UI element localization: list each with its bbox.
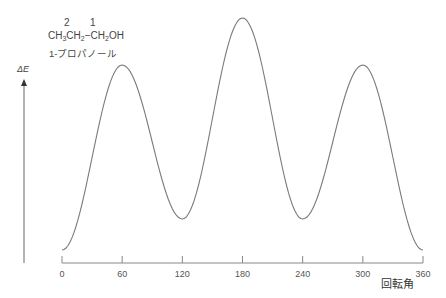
formula-part: −CH bbox=[85, 30, 105, 41]
y-axis-label: ΔE bbox=[17, 64, 29, 74]
formula-part: CH bbox=[48, 30, 62, 41]
x-tick-label: 300 bbox=[355, 269, 370, 279]
x-ticks: 060120180240300360 bbox=[59, 256, 430, 279]
x-tick-label: 180 bbox=[235, 269, 250, 279]
formula-part: CH bbox=[66, 30, 80, 41]
carbon-number-2: 2 bbox=[64, 17, 70, 28]
carbon-number-1: 1 bbox=[90, 17, 96, 28]
x-tick-label: 120 bbox=[175, 269, 190, 279]
energy-chart: 060120180240300360 bbox=[0, 0, 446, 298]
x-axis-label: 回転角 bbox=[381, 275, 414, 291]
x-tick-label: 360 bbox=[415, 269, 430, 279]
arrow-head-icon bbox=[21, 79, 27, 86]
x-tick-label: 240 bbox=[295, 269, 310, 279]
formula-part: OH bbox=[109, 30, 124, 41]
x-tick-label: 60 bbox=[117, 269, 127, 279]
molecule-name: 1-プロパノール bbox=[49, 46, 117, 60]
x-tick-label: 0 bbox=[59, 269, 64, 279]
molecule-formula: CH3CH2−CH2OH bbox=[48, 30, 124, 42]
